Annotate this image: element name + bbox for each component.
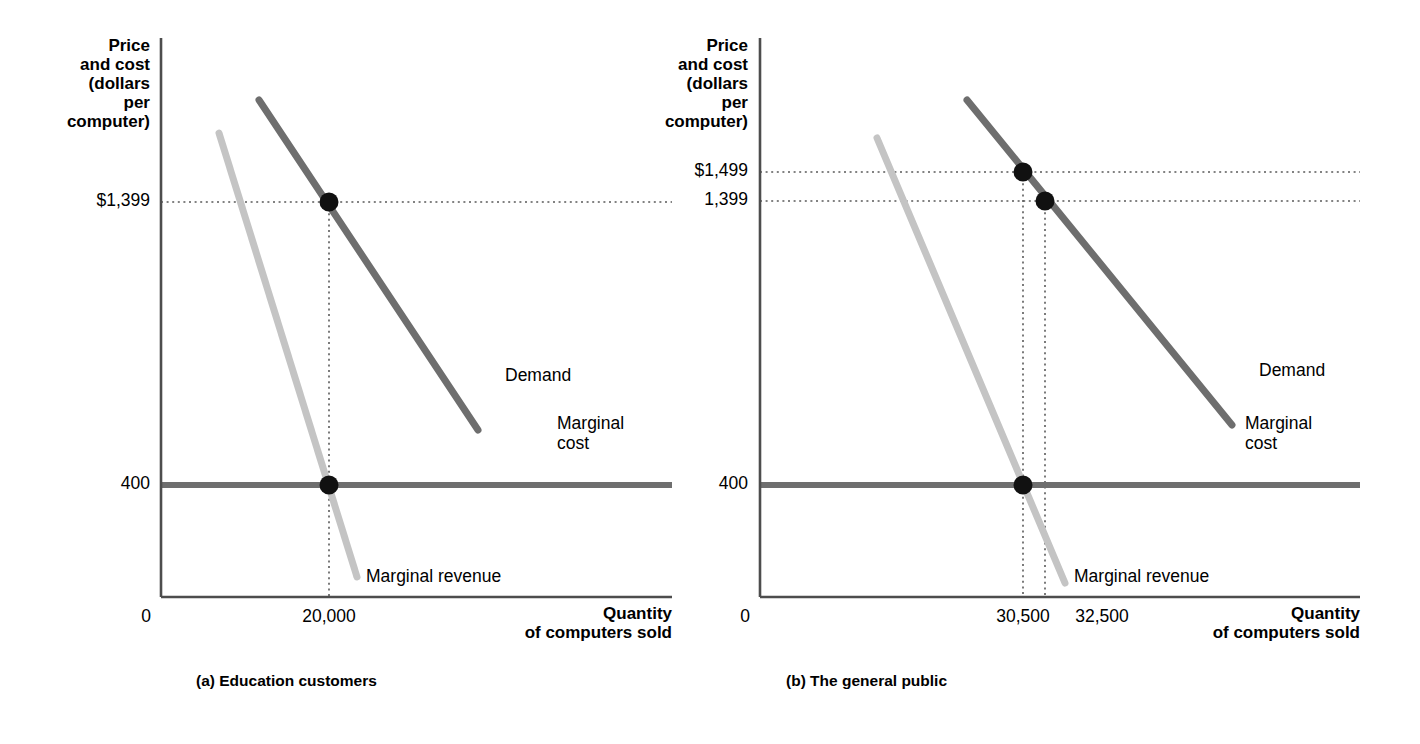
panel-general-public: Price and cost (dollars per computer) $1… — [710, 0, 1420, 744]
dot-price-1399 — [320, 193, 339, 212]
label-demand: Demand — [505, 366, 571, 386]
y-tick-1499: $1,499 — [640, 161, 748, 181]
y-tick-400: 400 — [640, 474, 748, 494]
y-tick-1399: $1,399 — [42, 191, 150, 211]
panel-caption: (a) Education customers — [196, 672, 377, 689]
dot-mr-equals-mc — [1014, 476, 1033, 495]
price-discrimination-figure: Price and cost (dollars per computer) $1… — [0, 0, 1420, 744]
dot-price-1499 — [1014, 163, 1033, 182]
dot-mr-equals-mc — [320, 476, 339, 495]
x-tick-20000: 20,000 — [274, 607, 384, 627]
label-marginal-cost: Marginal cost — [1245, 414, 1312, 453]
y-axis-title: Price and cost (dollars per computer) — [22, 36, 150, 131]
x-axis-title: Quantity of computers sold — [432, 604, 672, 642]
curve-demand — [967, 100, 1232, 425]
panel-caption: (b) The general public — [786, 672, 947, 689]
label-marginal-revenue: Marginal revenue — [366, 567, 501, 587]
curve-demand — [259, 100, 478, 430]
x-tick-origin: 0 — [730, 607, 760, 627]
y-tick-1399: 1,399 — [640, 190, 748, 210]
label-marginal-revenue: Marginal revenue — [1074, 567, 1209, 587]
panel-education-customers: Price and cost (dollars per computer) $1… — [0, 0, 710, 744]
label-marginal-cost: Marginal cost — [557, 414, 624, 453]
x-axis-title: Quantity of computers sold — [1120, 604, 1360, 642]
y-axis-title: Price and cost (dollars per computer) — [620, 36, 748, 131]
dot-price-1399 — [1036, 192, 1055, 211]
label-demand: Demand — [1259, 361, 1325, 381]
y-tick-400: 400 — [42, 474, 150, 494]
x-tick-origin: 0 — [131, 607, 161, 627]
